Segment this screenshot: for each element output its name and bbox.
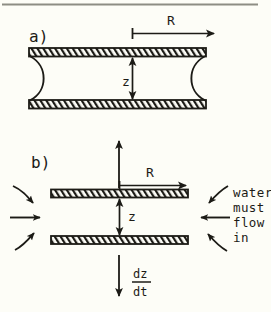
annotation-line-4: in bbox=[233, 230, 249, 245]
panel-a-radius-label: R bbox=[167, 13, 175, 28]
figure-container: a) R bbox=[0, 0, 271, 312]
panel-a-top-plate bbox=[29, 48, 206, 57]
rate-numerator: dz bbox=[133, 267, 147, 281]
panel-a-bottom-plate bbox=[29, 100, 206, 109]
curved-inflow-arrow-icon-top-left bbox=[13, 186, 33, 203]
panel-a: a) R bbox=[29, 13, 214, 109]
panel-b-right-inflow-arrows bbox=[201, 186, 230, 251]
panel-a-gap-label: z bbox=[122, 74, 130, 89]
panel-b-left-inflow-arrows bbox=[10, 186, 40, 250]
panel-b-label: b) bbox=[31, 153, 50, 172]
annotation-line-2: must bbox=[233, 200, 265, 215]
figure-canvas: a) R bbox=[0, 0, 271, 312]
panel-b-gap-label: z bbox=[128, 209, 136, 224]
panel-b-bottom-plate bbox=[51, 236, 188, 244]
curved-inflow-arrow-icon-bottom-right bbox=[208, 234, 227, 251]
annotation-line-1: water bbox=[233, 185, 271, 200]
panel-a-radius-arrow bbox=[133, 28, 215, 39]
annotation-line-3: flow bbox=[233, 215, 265, 230]
panel-a-right-meniscus bbox=[191, 57, 204, 101]
panel-b-radius-label: R bbox=[146, 165, 154, 180]
rate-denominator: dt bbox=[133, 285, 147, 299]
panel-b-annotation: water must flow in bbox=[233, 185, 271, 245]
panel-a-label: a) bbox=[29, 27, 48, 46]
panel-b-top-plate bbox=[51, 190, 188, 198]
curved-inflow-arrow-icon-top-right bbox=[209, 186, 228, 203]
panel-b-rate-fraction: dz dt bbox=[132, 267, 151, 299]
curved-inflow-arrow-icon-bottom-left bbox=[15, 233, 34, 250]
panel-b: b) R z bbox=[10, 141, 271, 299]
panel-a-left-meniscus bbox=[31, 57, 44, 101]
